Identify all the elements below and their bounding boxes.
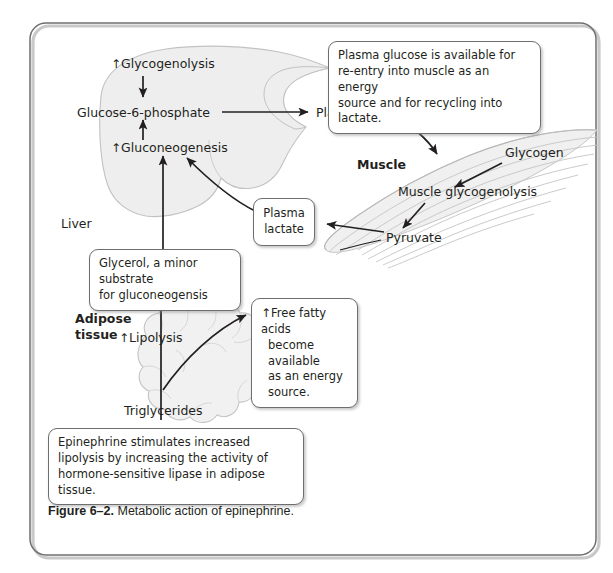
callout-plasma-glucose-note: Plasma glucose is available for re-entry… — [328, 41, 541, 134]
node-glycogen: Glycogen — [505, 145, 564, 161]
figure-caption: Figure 6–2. Metabolic action of epinephr… — [48, 504, 294, 518]
plasma-lactate-line2: lactate — [258, 222, 310, 238]
free-fatty-acids-note-line1: ↑Free fatty acids — [261, 305, 349, 338]
node-triglycerides: Triglycerides — [124, 403, 203, 419]
free-fatty-acids-note-line3: as an energy source. — [261, 369, 349, 401]
node-lipolysis: ↑Lipolysis — [119, 330, 182, 346]
epinephrine-note-line3: hormone-sensitive lipase in adipose tiss… — [58, 467, 295, 499]
free-fatty-acids-note-line2: become available — [261, 338, 349, 370]
node-glycogenolysis: ↑Glycogenolysis — [111, 56, 215, 72]
up-arrow-icon: ↑ — [261, 306, 271, 320]
adipose-label-line1: Adipose — [75, 311, 131, 327]
plasma-glucose-note-line2: re-entry into muscle as an energy — [338, 64, 532, 96]
figure-number: Figure 6–2. — [48, 504, 114, 518]
callout-epinephrine-note: Epinephrine stimulates increased lipolys… — [48, 428, 304, 505]
glycerol-note-line1: Glycerol, a minor substrate — [99, 256, 232, 288]
organ-label-liver: Liver — [61, 216, 92, 232]
organ-label-muscle: Muscle — [357, 157, 406, 173]
up-arrow-icon: ↑ — [119, 331, 129, 345]
up-arrow-icon: ↑ — [111, 57, 121, 71]
node-pyruvate: Pyruvate — [386, 230, 442, 246]
epinephrine-note-line1: Epinephrine stimulates increased — [58, 435, 295, 451]
node-glucose-6-phosphate: Glucose-6-phosphate — [77, 105, 210, 121]
callout-glycerol-note: Glycerol, a minor substrate for gluconeo… — [89, 249, 241, 311]
node-muscle-glycogenolysis: Muscle glycogenolysis — [398, 184, 537, 200]
figure-container: ↑Glycogenolysis Glucose-6-phosphate ↑Glu… — [0, 0, 613, 573]
plasma-glucose-note-line1: Plasma glucose is available for — [338, 48, 532, 64]
epinephrine-note-line2: lipolysis by increasing the activity of — [58, 451, 295, 467]
up-arrow-icon: ↑ — [111, 141, 121, 155]
plasma-glucose-note-line3: source and for recycling into lactate. — [338, 96, 532, 128]
node-gluconeogenesis: ↑Gluconeogenesis — [111, 140, 228, 156]
glycerol-note-line2: for gluconeogensis — [99, 288, 232, 304]
figure-caption-text: Metabolic action of epinephrine. — [114, 504, 294, 518]
plasma-lactate-line1: Plasma — [258, 206, 310, 222]
callout-free-fatty-acids-note: ↑Free fatty acids become available as an… — [251, 298, 358, 408]
node-plasma-lactate: Plasma lactate — [253, 198, 315, 246]
